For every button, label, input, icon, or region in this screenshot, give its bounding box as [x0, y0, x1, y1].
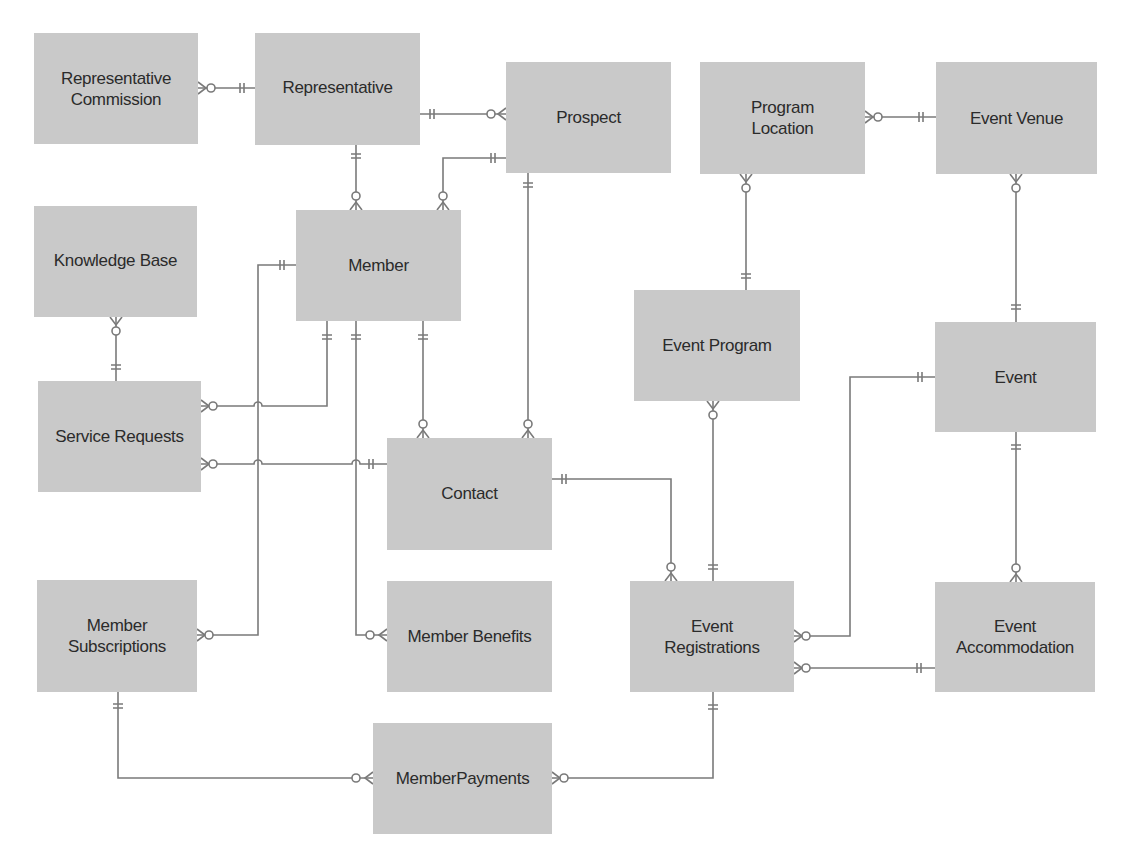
entity-label: Representative Commission [34, 68, 198, 110]
entity-event-program[interactable]: Event Program [634, 290, 800, 401]
rel-event-accommodation-event-registrations [794, 662, 935, 674]
entity-event-registrations[interactable]: Event Registrations [630, 581, 794, 692]
entity-label: Service Requests [51, 426, 187, 447]
rel-event-event-registrations [794, 372, 935, 642]
rel-event-event-accommodation [1010, 432, 1022, 582]
rel-event-registrations-member-payments [552, 692, 718, 784]
rel-contact-service-requests [201, 458, 387, 470]
entity-label: Knowledge Base [50, 250, 181, 271]
rel-member-subscriptions-member-payments [113, 692, 373, 784]
entity-knowledge-base[interactable]: Knowledge Base [34, 206, 197, 317]
entity-representative[interactable]: Representative [255, 33, 420, 145]
entity-label: Member Subscriptions [53, 615, 181, 657]
rel-member-service-requests [201, 321, 332, 412]
rel-event-venue-program-location [865, 111, 936, 123]
entity-label: Member [344, 255, 413, 276]
entity-label: Program Location [734, 97, 832, 139]
rel-contact-event-registrations [552, 474, 677, 581]
entity-event-accommodation[interactable]: Event Accommodation [935, 582, 1095, 692]
entity-contact[interactable]: Contact [387, 438, 552, 550]
entity-member[interactable]: Member [296, 210, 461, 321]
rel-event-program-program-location [740, 174, 752, 290]
entity-event[interactable]: Event [935, 322, 1096, 432]
rel-member-member-subscriptions [197, 260, 296, 641]
entity-program-location[interactable]: Program Location [700, 62, 865, 174]
entity-member-payments[interactable]: MemberPayments [373, 723, 552, 834]
entity-representative-commission[interactable]: Representative Commission [34, 33, 198, 144]
rel-member-member-benefits [351, 321, 387, 641]
entity-member-benefits[interactable]: Member Benefits [387, 581, 552, 692]
entity-label: MemberPayments [392, 768, 534, 789]
entity-label: Event Program [658, 335, 775, 356]
rel-service-requests-knowledge-base [110, 317, 122, 381]
rel-prospect-member [437, 153, 506, 210]
rel-member-contact [417, 321, 429, 438]
entity-label: Prospect [552, 107, 625, 128]
rel-event-registrations-event-program [707, 401, 719, 581]
rel-representative-rep-commission [198, 82, 255, 94]
entity-member-subscriptions[interactable]: Member Subscriptions [37, 580, 197, 692]
entity-prospect[interactable]: Prospect [506, 62, 671, 173]
entity-event-venue[interactable]: Event Venue [936, 62, 1097, 174]
entity-label: Member Benefits [404, 626, 536, 647]
er-diagram-canvas: Representative Commission Representative… [0, 0, 1129, 868]
rel-representative-prospect [420, 108, 506, 120]
rel-event-event-venue [1010, 174, 1022, 322]
entity-service-requests[interactable]: Service Requests [38, 381, 201, 492]
entity-label: Contact [437, 483, 502, 504]
entity-label: Event [991, 367, 1041, 388]
rel-representative-member [350, 145, 362, 210]
entity-label: Representative [278, 77, 396, 98]
rel-prospect-contact [522, 173, 534, 438]
entity-label: Event Accommodation [941, 616, 1089, 658]
entity-label: Event Registrations [648, 616, 776, 658]
entity-label: Event Venue [966, 108, 1067, 129]
